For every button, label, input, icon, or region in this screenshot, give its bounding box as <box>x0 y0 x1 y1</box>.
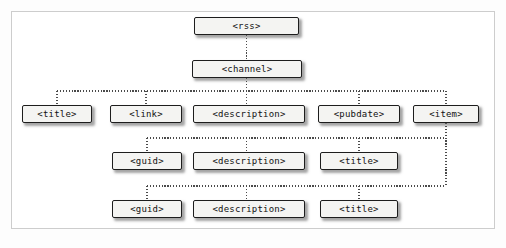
node-channel-link[interactable]: <link> <box>110 105 182 123</box>
node-item2-description[interactable]: <description> <box>193 200 305 218</box>
node-item2-title[interactable]: <title> <box>320 200 398 218</box>
node-label: <guid> <box>130 204 164 213</box>
node-label: <link> <box>129 109 163 118</box>
diagram-canvas: <rss> <channel> <title> <link> <descript… <box>0 0 506 248</box>
node-label: <rss> <box>232 21 260 30</box>
node-label: <pubdate> <box>334 109 385 118</box>
node-channel[interactable]: <channel> <box>192 60 302 78</box>
node-item1-description[interactable]: <description> <box>193 152 305 170</box>
node-channel-item[interactable]: <item> <box>413 105 479 123</box>
node-item1-guid[interactable]: <guid> <box>112 152 182 170</box>
node-label: <channel> <box>222 64 273 73</box>
node-channel-description[interactable]: <description> <box>193 105 305 123</box>
node-label: <title> <box>339 204 378 213</box>
node-rss[interactable]: <rss> <box>194 17 299 35</box>
node-label: <description> <box>212 156 285 165</box>
node-channel-title[interactable]: <title> <box>22 105 92 123</box>
node-label: <title> <box>37 109 76 118</box>
node-item2-guid[interactable]: <guid> <box>112 200 182 218</box>
node-item1-title[interactable]: <title> <box>320 152 398 170</box>
node-label: <item> <box>429 109 463 118</box>
node-label: <guid> <box>130 156 164 165</box>
node-label: <description> <box>212 109 285 118</box>
node-label: <title> <box>339 156 378 165</box>
node-channel-pubdate[interactable]: <pubdate> <box>318 105 400 123</box>
node-label: <description> <box>212 204 285 213</box>
